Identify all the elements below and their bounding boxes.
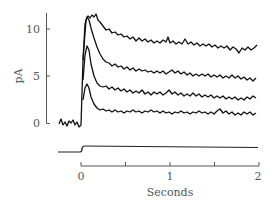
trace-3 (83, 46, 256, 100)
stimulus-trace (58, 146, 258, 152)
y-axis-label: pA (12, 67, 25, 83)
y-tick-0: 0 (33, 117, 40, 130)
x-tick-2: 2 (255, 170, 262, 183)
x-axis-label: Seconds (147, 186, 194, 199)
y-tick-10: 10 (26, 23, 40, 36)
y-tick-5: 5 (33, 70, 40, 83)
chart: 10 5 0 pA 0 1 2 Seconds (0, 0, 275, 207)
x-tick-1: 1 (167, 170, 174, 183)
current-traces (59, 14, 257, 127)
x-tick-0: 0 (78, 170, 85, 183)
trace-1 (59, 14, 257, 127)
y-axis (47, 13, 51, 124)
x-axis (81, 162, 259, 166)
